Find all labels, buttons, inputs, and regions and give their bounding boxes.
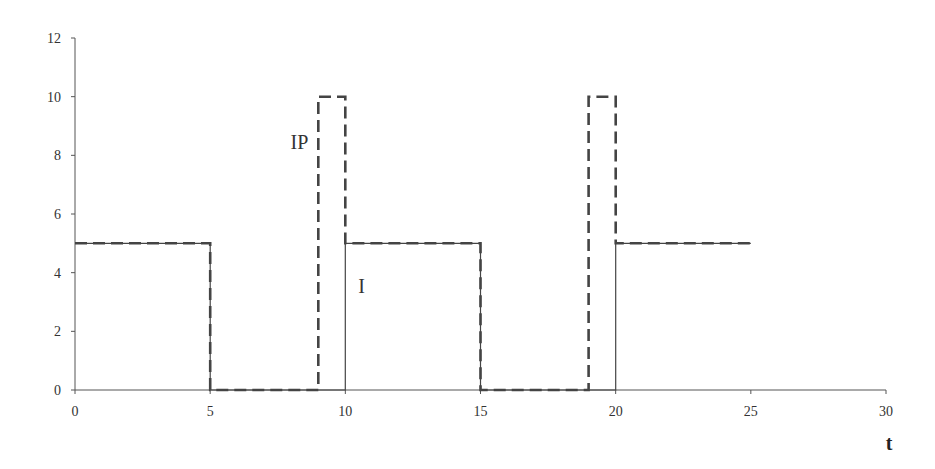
x-tick-label: 20: [609, 404, 623, 419]
x-tick-label: 0: [72, 404, 79, 419]
x-tick-label: 10: [338, 404, 352, 419]
x-axis-title: t: [886, 432, 893, 454]
series-label-i: I: [358, 275, 365, 297]
series-lines: [75, 97, 751, 390]
y-tick-label: 8: [54, 148, 61, 163]
y-tick-label: 4: [54, 266, 61, 281]
series-ip: [75, 97, 751, 390]
series-label-ip: IP: [290, 131, 308, 153]
series-i: [75, 243, 751, 390]
y-tick-label: 10: [47, 90, 61, 105]
y-tick-label: 2: [54, 324, 61, 339]
y-tick-label: 0: [54, 383, 61, 398]
y-tick-label: 6: [54, 207, 61, 222]
x-tick-label: 30: [879, 404, 893, 419]
x-tick-label: 5: [207, 404, 214, 419]
y-tick-label: 12: [47, 31, 61, 46]
labels: IPIt: [290, 131, 892, 454]
x-tick-label: 25: [744, 404, 758, 419]
x-tick-label: 15: [474, 404, 488, 419]
axes: 051015202530024681012: [47, 31, 893, 419]
chart: 051015202530024681012 IPIt: [0, 0, 935, 469]
